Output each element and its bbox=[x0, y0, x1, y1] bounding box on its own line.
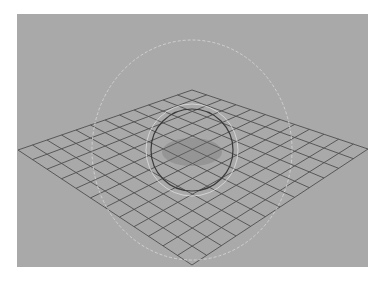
grid-line bbox=[120, 124, 295, 217]
manipulator-center-shade bbox=[162, 138, 222, 166]
grid-line bbox=[192, 149, 368, 265]
scene-canvas[interactable] bbox=[17, 14, 368, 267]
ground-grid bbox=[18, 90, 368, 265]
3d-viewport[interactable] bbox=[17, 14, 368, 267]
